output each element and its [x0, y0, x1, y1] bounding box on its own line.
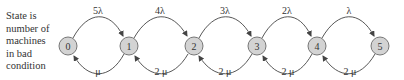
state-node-5: 5: [371, 37, 389, 55]
state-node-2: 2: [185, 37, 203, 55]
state-node-4: 4: [308, 37, 326, 55]
state-node-1: 1: [120, 37, 138, 55]
state-node-label: 5: [378, 41, 383, 52]
state-node-3: 3: [248, 37, 266, 55]
rate-label-0-1: 5λ: [93, 5, 103, 16]
arc-3-4: [262, 17, 311, 38]
rate-label-4-5: λ: [347, 5, 352, 16]
state-transition-diagram: 5λ 4λ 3λ 2λ λ μ 2 μ 2 μ 2 μ 2 μ 0 1 2 3 …: [0, 0, 404, 80]
rate-label-2-1: 2 μ: [155, 66, 168, 77]
state-node-label: 4: [315, 41, 320, 52]
state-node-label: 2: [192, 41, 197, 52]
rate-label-1-0: μ: [95, 66, 100, 77]
forward-arcs: [73, 17, 374, 38]
rate-label-2-3: 3λ: [220, 5, 230, 16]
arc-0-1: [73, 17, 123, 38]
arc-2-3: [199, 17, 251, 38]
rate-label-3-2: 2 μ: [219, 66, 232, 77]
state-node-label: 1: [127, 41, 132, 52]
arc-1-2: [134, 17, 187, 38]
rate-label-5-4: 2 μ: [344, 66, 357, 77]
state-node-0: 0: [59, 37, 77, 55]
state-node-label: 3: [255, 41, 260, 52]
rate-label-3-4: 2λ: [282, 5, 292, 16]
rate-label-1-2: 4λ: [155, 5, 165, 16]
arc-4-5: [322, 17, 374, 38]
state-node-label: 0: [66, 41, 71, 52]
rate-label-4-3: 2 μ: [282, 66, 295, 77]
